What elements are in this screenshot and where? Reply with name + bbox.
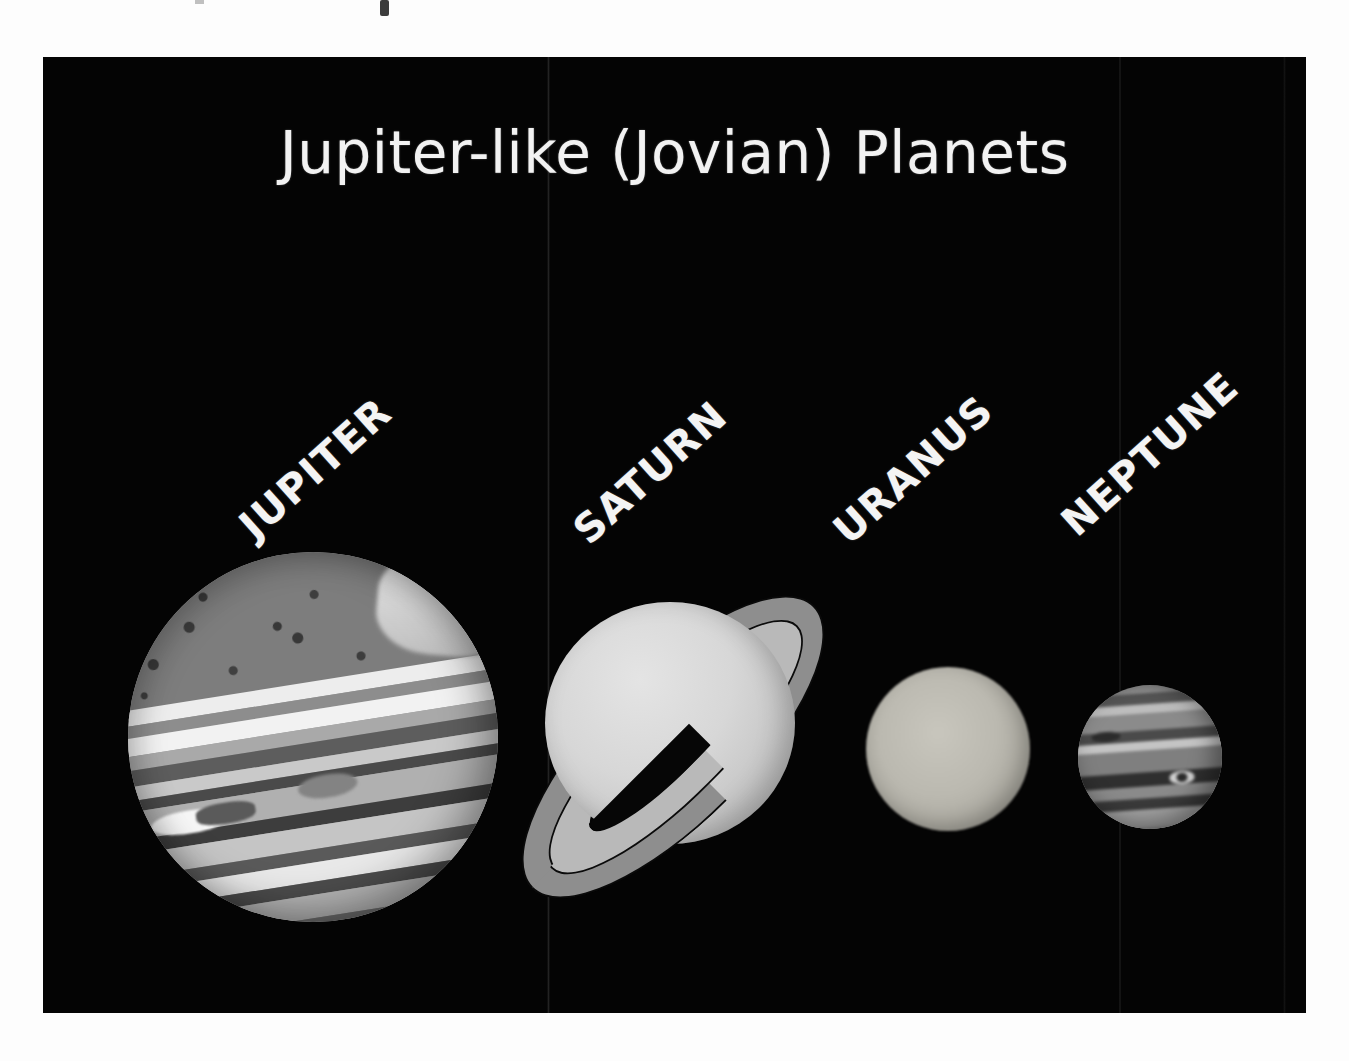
cut-off-text-fragment-left xyxy=(195,0,204,4)
slide-title: Jupiter-like (Jovian) Planets xyxy=(43,119,1306,187)
planet-jupiter xyxy=(128,552,498,922)
jupiter-limb-shading xyxy=(128,552,498,922)
slide-page: Jupiter-like (Jovian) Planets JUPITER SA… xyxy=(0,0,1349,1061)
planet-uranus xyxy=(866,667,1030,831)
planet-label-neptune: NEPTUNE xyxy=(1052,363,1247,545)
presentation-slide: Jupiter-like (Jovian) Planets JUPITER SA… xyxy=(43,57,1306,1013)
planet-neptune xyxy=(1078,685,1222,829)
planet-saturn xyxy=(473,527,873,967)
saturn-body xyxy=(545,602,795,844)
cut-off-text-fragment-right xyxy=(380,0,389,16)
planet-label-jupiter: JUPITER xyxy=(230,388,400,548)
panel-seam-2 xyxy=(1119,57,1121,1013)
panel-seam-3 xyxy=(1283,57,1286,1013)
neptune-limb-shading xyxy=(1078,685,1222,829)
